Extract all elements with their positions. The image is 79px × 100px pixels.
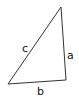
side-a-line	[61, 7, 66, 80]
side-c-line	[8, 7, 61, 84]
label-side-a: a	[67, 49, 74, 62]
side-b-line	[8, 80, 66, 84]
label-side-c: c	[22, 42, 28, 55]
triangle-diagram: c a b	[0, 0, 79, 100]
label-side-b: b	[37, 85, 44, 98]
